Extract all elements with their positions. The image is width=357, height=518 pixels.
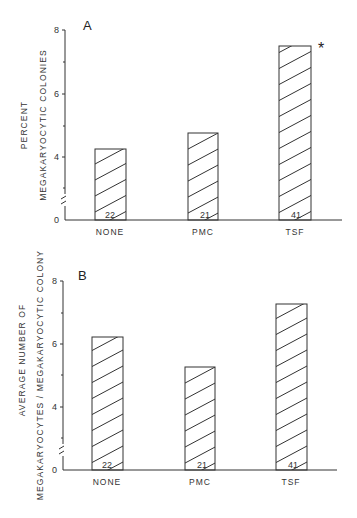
x-category-label: NONE <box>96 227 125 237</box>
bar-n-label: 22 <box>105 210 115 220</box>
y-axis-title-line2: MEGAKARYOCYTIC COLONIES <box>38 49 48 201</box>
y-tick-8: 8 <box>52 276 57 286</box>
x-category-label: PMC <box>192 227 214 237</box>
axis-break-mark <box>59 451 64 454</box>
axis-break-mark <box>59 446 64 449</box>
x-category-label: PMC <box>189 477 211 487</box>
y-axis-title-line1: PERCENT <box>19 101 29 149</box>
bar-chart-b: AVERAGE NUMBER OF MEGAKARYOCYTES / MEGAK… <box>0 250 357 518</box>
y-tick-6: 6 <box>54 89 59 99</box>
y-axis-title-line2: MEGAKARYOCYTES / MEGAKARYOCYTIC COLONY <box>35 250 45 500</box>
x-category-label: NONE <box>93 477 122 487</box>
bar-tsf <box>262 294 322 486</box>
y-tick-4: 4 <box>54 152 59 162</box>
y-axis <box>59 281 64 470</box>
y-tick-0: 0 <box>52 465 57 475</box>
panel-label: B <box>78 268 87 283</box>
y-axis-title-line1: AVERAGE NUMBER OF <box>17 304 27 417</box>
chart-panel-a: PERCENT MEGAKARYOCYTIC COLONIES A 8 6 4 … <box>0 0 357 250</box>
y-tick-6: 6 <box>52 339 57 349</box>
bar-n-label: 41 <box>291 210 301 220</box>
y-tick-8: 8 <box>54 25 59 35</box>
x-category-label: TSF <box>281 477 300 487</box>
x-category-label: TSF <box>285 227 304 237</box>
axis-break-mark <box>61 201 66 204</box>
y-axis <box>61 30 66 220</box>
bar-none <box>80 140 140 236</box>
bar-n-label: 41 <box>288 460 298 470</box>
bar-chart-a: PERCENT MEGAKARYOCYTIC COLONIES A 8 6 4 … <box>0 0 357 250</box>
y-tick-4: 4 <box>52 402 57 412</box>
y-tick-0: 0 <box>54 215 59 225</box>
bar-tsf <box>265 28 325 236</box>
bar-n-label: 21 <box>200 210 210 220</box>
bar-n-label: 21 <box>197 460 207 470</box>
bar-n-label: 22 <box>102 460 112 470</box>
axis-break-mark <box>61 196 66 199</box>
panel-label: A <box>83 18 92 33</box>
chart-panel-b: AVERAGE NUMBER OF MEGAKARYOCYTES / MEGAK… <box>0 250 357 518</box>
significance-asterisk: * <box>318 40 324 57</box>
